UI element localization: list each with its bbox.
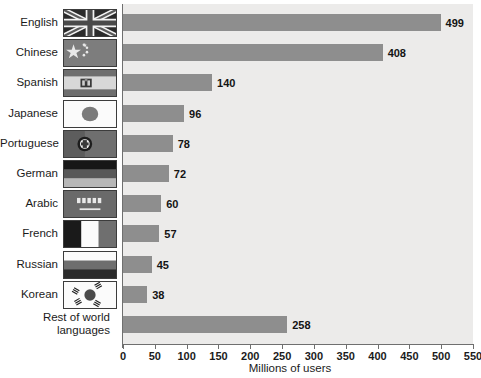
category-label: French	[0, 227, 58, 239]
x-tick-mark	[409, 344, 410, 349]
x-tick-mark	[346, 344, 347, 349]
x-tick-label: 150	[209, 350, 227, 362]
category-label: Russian	[0, 258, 58, 270]
bar	[123, 316, 287, 333]
category-label: Portuguese	[0, 137, 58, 149]
x-tick-label: 0	[120, 350, 126, 362]
bar-value-label: 38	[152, 289, 164, 301]
category-label: Japanese	[0, 107, 58, 119]
bar	[123, 74, 212, 91]
bar-value-label: 258	[292, 319, 310, 331]
bar-value-label: 45	[157, 259, 169, 271]
x-tick-label: 200	[241, 350, 259, 362]
x-tick-mark	[314, 344, 315, 349]
flag-china-icon	[63, 39, 117, 67]
flag-egypt-icon	[63, 190, 117, 218]
bar-value-label: 96	[189, 108, 201, 120]
category-label: German	[0, 167, 58, 179]
bar	[123, 44, 383, 61]
bar	[123, 105, 184, 122]
category-label: Korean	[0, 288, 58, 300]
flag-russia-icon	[63, 251, 117, 279]
x-tick-label: 350	[337, 350, 355, 362]
bar	[123, 165, 169, 182]
language-users-bar-chart: 050100150200250300350400450500550 Englis…	[0, 0, 481, 378]
flag-portugal-icon	[63, 130, 117, 158]
x-tick-label: 50	[149, 350, 161, 362]
x-tick-mark	[218, 344, 219, 349]
bar-value-label: 57	[164, 228, 176, 240]
bar-value-label: 408	[388, 47, 406, 59]
bar-value-label: 60	[166, 198, 178, 210]
x-tick-mark	[250, 344, 251, 349]
flag-france-icon	[63, 220, 117, 248]
bar	[123, 256, 152, 273]
flag-spain-icon	[63, 69, 117, 97]
x-tick-label: 100	[177, 350, 195, 362]
x-tick-label: 500	[432, 350, 450, 362]
bar	[123, 286, 147, 303]
x-tick-mark	[473, 344, 474, 349]
bar	[123, 195, 161, 212]
flag-germany-icon	[63, 160, 117, 188]
x-tick-label: 300	[305, 350, 323, 362]
bar	[123, 135, 173, 152]
x-tick-mark	[282, 344, 283, 349]
flag-japan-icon	[63, 100, 117, 128]
category-label: English	[0, 16, 58, 28]
bar-value-label: 72	[174, 168, 186, 180]
bar-value-label: 140	[217, 77, 235, 89]
flag-south-korea-icon	[63, 281, 117, 309]
x-tick-mark	[378, 344, 379, 349]
x-tick-mark	[187, 344, 188, 349]
x-tick-label: 450	[400, 350, 418, 362]
bar	[123, 14, 441, 31]
x-tick-mark	[441, 344, 442, 349]
category-label: Rest of worldlanguages	[0, 311, 110, 336]
flag-united-kingdom-icon	[63, 9, 117, 37]
x-tick-label: 400	[368, 350, 386, 362]
x-tick-label: 550	[464, 350, 481, 362]
category-label: Chinese	[0, 46, 58, 58]
x-tick-label: 250	[273, 350, 291, 362]
x-tick-mark	[123, 344, 124, 349]
x-axis-title: Millions of users	[249, 362, 331, 374]
x-axis-line	[122, 344, 474, 345]
x-tick-mark	[155, 344, 156, 349]
category-label: Arabic	[0, 197, 58, 209]
bar	[123, 225, 159, 242]
bar-value-label: 78	[178, 138, 190, 150]
bar-value-label: 499	[446, 17, 464, 29]
category-label: Spanish	[0, 76, 58, 88]
